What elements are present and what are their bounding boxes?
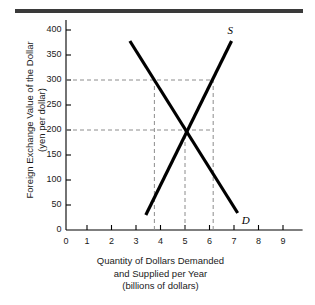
x-tick-label: 8: [252, 236, 266, 246]
x-tick-label: 4: [154, 236, 168, 246]
x-tick-label: 2: [105, 236, 119, 246]
y-tick-label: 0: [36, 224, 62, 234]
x-tick-label: 1: [80, 236, 94, 246]
y-axis-title: Foreign Exchange Value of the Dollar (ye…: [24, 20, 48, 220]
y-axis-title-line-1: Foreign Exchange Value of the Dollar: [24, 20, 36, 220]
annotation-dashed-lines: [66, 80, 213, 230]
x-axis-title-line-3: (billions of dollars): [58, 280, 263, 293]
x-axis-title-line-2: and Supplied per Year: [58, 268, 263, 281]
x-axis-title-line-1: Quantity of Dollars Demanded: [58, 255, 263, 268]
x-tick-label: 5: [178, 236, 192, 246]
demand-curve-label: D: [242, 214, 250, 226]
y-axis-title-line-2: (yen per dollar): [36, 20, 48, 220]
curve-D: [130, 41, 238, 213]
curve-S: [146, 41, 232, 215]
figure-container: 050100150200250300350400 0123456789 Fore…: [0, 0, 315, 305]
x-tick-label: 7: [227, 236, 241, 246]
supply-curve-label: S: [228, 24, 234, 36]
curve-lines: [130, 41, 238, 215]
x-axis-title: Quantity of Dollars Demanded and Supplie…: [58, 255, 263, 293]
x-tick-label: 6: [203, 236, 217, 246]
x-tick-label: 0: [59, 236, 73, 246]
x-tick-label: 3: [129, 236, 143, 246]
x-tick-label: 9: [276, 236, 290, 246]
